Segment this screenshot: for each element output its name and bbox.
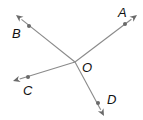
label-a: A <box>117 5 127 20</box>
rays-diagram: A B C D O <box>0 0 143 120</box>
arrowhead-icon <box>129 15 137 22</box>
label-d: D <box>107 92 116 107</box>
label-b: B <box>12 26 21 41</box>
point-b <box>27 24 31 28</box>
point-d <box>96 101 100 105</box>
point-c <box>26 75 30 79</box>
label-o: O <box>82 60 92 75</box>
ray-oa <box>75 19 131 62</box>
arrowhead-icon <box>13 76 21 82</box>
label-c: C <box>23 83 33 98</box>
point-a <box>123 22 127 26</box>
labels-layer: A B C D O <box>12 5 127 107</box>
rays-layer <box>13 15 137 116</box>
arrowhead-icon <box>16 15 23 22</box>
